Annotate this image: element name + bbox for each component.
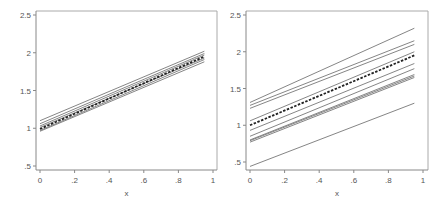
x-tick-label: .8	[385, 176, 392, 185]
series-line	[40, 54, 204, 124]
figure: .511.522.50.2.4.6.81x .511.522.50.2.4.6.…	[0, 0, 445, 204]
x-axis-label: x	[125, 189, 129, 198]
series-line	[40, 55, 204, 126]
y-tick-label: 1.5	[230, 85, 242, 94]
x-tick-label: .6	[140, 176, 147, 185]
x-tick-label: 1	[211, 176, 216, 185]
series-line	[250, 44, 414, 108]
series-line	[250, 76, 414, 141]
y-tick-label: .5	[24, 162, 31, 171]
left-panel: .511.522.50.2.4.6.81x	[20, 11, 217, 198]
y-tick-label: 2	[27, 49, 32, 58]
right-panel: .511.522.50.2.4.6.81x	[230, 11, 428, 198]
series-line	[250, 75, 414, 140]
x-tick-label: .6	[350, 176, 357, 185]
y-tick-label: .5	[234, 158, 241, 167]
y-tick-label: 2.5	[230, 11, 242, 20]
x-tick-label: 0	[38, 176, 43, 185]
x-tick-label: 1	[421, 176, 426, 185]
x-tick-label: .4	[106, 176, 113, 185]
series-line	[40, 51, 204, 120]
y-tick-label: 1	[237, 121, 242, 130]
mean-line	[250, 55, 414, 125]
mean-line	[40, 57, 204, 129]
series-line	[250, 103, 414, 166]
y-tick-label: 2	[237, 48, 242, 57]
series-line	[250, 52, 414, 121]
x-tick-label: .8	[175, 176, 182, 185]
series-line	[250, 77, 414, 142]
series-line	[40, 62, 204, 131]
y-tick-label: 1	[27, 124, 32, 133]
series-line	[250, 28, 414, 102]
series-line	[40, 60, 204, 131]
x-tick-label: .2	[71, 176, 78, 185]
y-tick-label: 1.5	[20, 87, 32, 96]
x-tick-label: .2	[281, 176, 288, 185]
y-tick-label: 2.5	[20, 11, 32, 20]
x-tick-label: .4	[316, 176, 323, 185]
x-tick-label: 0	[248, 176, 253, 185]
x-axis-label: x	[335, 189, 339, 198]
series-line	[250, 69, 414, 137]
